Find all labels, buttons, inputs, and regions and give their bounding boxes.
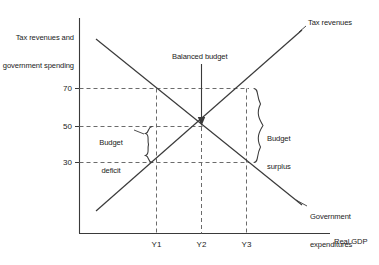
y-axis-title-line2: government spending [0, 61, 74, 70]
x-mark-label-y2: Y2 [189, 240, 214, 249]
x-mark-label-y1: Y1 [144, 240, 169, 249]
budget-deficit-label-line1: Budget [88, 138, 134, 147]
budget-surplus-label-line1: Budget [267, 134, 317, 143]
tax-revenues-leader [299, 26, 306, 32]
y-tick-label-50: 50 [52, 122, 72, 131]
x-mark-label-y3: Y3 [234, 240, 259, 249]
budget-surplus-label-line2: surplus [267, 162, 317, 171]
diagram-canvas: Tax revenues and government spending 70 … [0, 0, 379, 265]
budget-deficit-label-line2: deficit [88, 166, 134, 175]
y-axis-title: Tax revenues and government spending [0, 15, 74, 89]
budget-deficit-leader [134, 130, 144, 134]
budget-surplus-label: Budget surplus [267, 116, 317, 190]
government-expenditures-label-line1: Government [310, 212, 378, 221]
budget-deficit-brace [146, 127, 153, 163]
balanced-budget-label: Balanced budget [172, 52, 262, 61]
government-expenditures-label: Government expenditures [310, 194, 378, 265]
budget-deficit-label: Budget deficit [88, 120, 134, 194]
budget-surplus-brace [254, 89, 263, 163]
y-axis-title-line1: Tax revenues and [0, 33, 74, 42]
y-tick-label-30: 30 [52, 158, 72, 167]
y-tick-label-70: 70 [52, 84, 72, 93]
government-expenditures-label-line2: expenditures [310, 240, 378, 249]
tax-revenues-label: Tax revenues [308, 18, 378, 27]
